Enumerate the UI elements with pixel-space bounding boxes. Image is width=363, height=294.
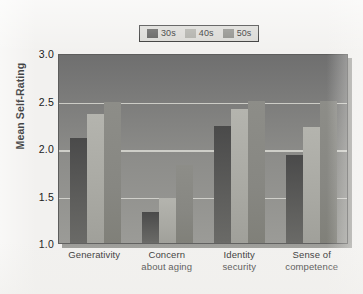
x-axis-category-line: Identity xyxy=(203,249,276,261)
bar-50s xyxy=(320,101,337,244)
x-axis-labels: GenerativityConcernabout agingIdentityse… xyxy=(58,249,348,272)
y-axis-tick-label: 1.0 xyxy=(24,238,54,250)
y-axis-tick-label: 1.5 xyxy=(24,191,54,203)
bar-50s xyxy=(248,101,265,244)
bar-40s xyxy=(303,127,320,243)
figure-panel: 30s 40s 50s Mean Self-Rating 3.02.52.01.… xyxy=(0,0,363,294)
bar-40s xyxy=(87,114,104,243)
bar-50s xyxy=(176,165,193,243)
x-axis-category-label: Sense ofcompetence xyxy=(276,249,349,272)
bar-30s xyxy=(286,155,303,243)
legend-label-30s: 30s xyxy=(161,29,176,38)
y-axis-tick-label: 2.0 xyxy=(24,143,54,155)
plot-area xyxy=(58,54,348,244)
y-axis-ticks: 3.02.52.01.51.0 xyxy=(22,54,54,244)
legend-label-50s: 50s xyxy=(237,29,252,38)
bar-40s xyxy=(159,198,176,243)
x-axis-category-label: Concernabout aging xyxy=(131,249,204,272)
x-axis-category-label: Identitysecurity xyxy=(203,249,276,272)
bar-30s xyxy=(142,212,159,243)
legend-label-40s: 40s xyxy=(199,29,214,38)
x-axis-category-line: security xyxy=(203,261,276,273)
x-axis-category-line: Concern xyxy=(131,249,204,261)
bar-30s xyxy=(70,138,87,243)
legend-swatch-icon-50s xyxy=(223,29,234,38)
x-axis-category-label: Generativity xyxy=(58,249,131,272)
x-axis-category-line: Sense of xyxy=(276,249,349,261)
x-axis-category-line: Generativity xyxy=(58,249,131,261)
bar-group xyxy=(59,55,131,243)
legend-swatch-icon-40s xyxy=(185,29,196,38)
chart-legend: 30s 40s 50s xyxy=(139,25,259,42)
legend-swatch-icon-30s xyxy=(147,29,158,38)
y-axis-tick-label: 3.0 xyxy=(24,48,54,60)
bar-groups xyxy=(59,55,347,243)
legend-entry-30s: 30s xyxy=(147,29,176,38)
legend-entry-40s: 40s xyxy=(185,29,214,38)
bar-group xyxy=(131,55,203,243)
legend-entry-50s: 50s xyxy=(223,29,252,38)
bar-50s xyxy=(104,102,121,243)
x-axis-category-line: about aging xyxy=(131,261,204,273)
x-axis-category-line: competence xyxy=(276,261,349,273)
bar-30s xyxy=(214,126,231,243)
y-axis-tick-label: 2.5 xyxy=(24,96,54,108)
bar-group xyxy=(203,55,275,243)
bar-40s xyxy=(231,109,248,243)
bar-group xyxy=(275,55,347,243)
